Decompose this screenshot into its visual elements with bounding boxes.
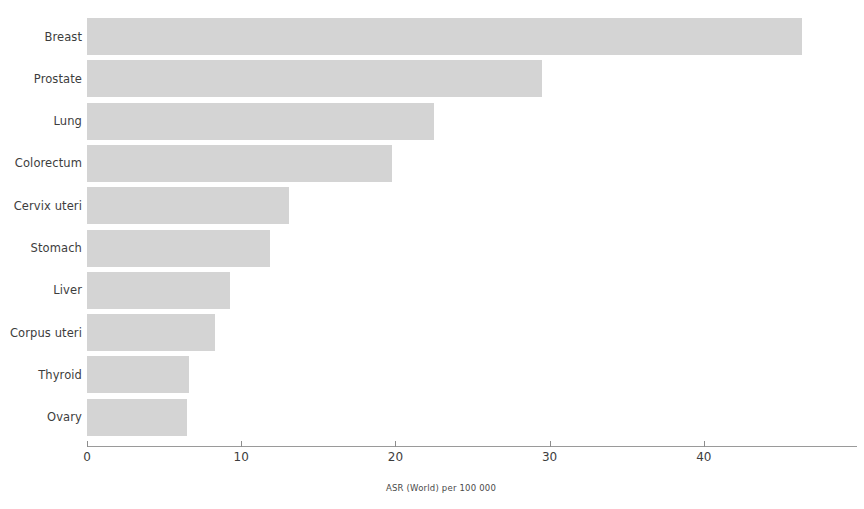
category-label: Prostate — [0, 72, 82, 86]
y-axis-tick-label: Colorectum — [0, 145, 82, 182]
bar-row — [87, 103, 812, 140]
y-axis-tick-label: Corpus uteri — [0, 314, 82, 351]
bar[interactable] — [87, 18, 802, 55]
y-axis-tick-label: Prostate — [0, 60, 82, 97]
y-axis-tick-label: Breast — [0, 18, 82, 55]
bar[interactable] — [87, 230, 270, 267]
x-axis-tick-label: 0 — [83, 450, 91, 464]
x-axis-tick — [550, 441, 551, 447]
plot-area — [87, 18, 812, 443]
y-axis-tick-label: Cervix uteri — [0, 187, 82, 224]
category-label: Ovary — [0, 410, 82, 424]
y-axis-tick-label: Ovary — [0, 399, 82, 436]
y-axis-tick-label: Lung — [0, 103, 82, 140]
bar[interactable] — [87, 103, 434, 140]
bar-row — [87, 314, 812, 351]
category-label: Colorectum — [0, 156, 82, 170]
x-axis-tick-label: 20 — [388, 450, 403, 464]
x-axis-title: ASR (World) per 100 000 — [0, 483, 864, 493]
bar[interactable] — [87, 272, 230, 309]
category-label: Lung — [0, 114, 82, 128]
bar-chart: BreastProstateLungColorectumCervix uteri… — [0, 0, 864, 509]
bar-row — [87, 145, 812, 182]
x-axis-title-text: ASR (World) per 100 000 — [368, 483, 496, 493]
category-label: Liver — [0, 283, 82, 297]
y-axis-tick-label: Thyroid — [0, 356, 82, 393]
category-label: Breast — [0, 30, 82, 44]
x-axis-tick — [241, 441, 242, 447]
x-axis-tick — [704, 441, 705, 447]
bar-row — [87, 356, 812, 393]
x-axis-tick — [395, 441, 396, 447]
bar[interactable] — [87, 356, 189, 393]
bar-row — [87, 399, 812, 436]
bar-row — [87, 187, 812, 224]
category-label: Corpus uteri — [0, 326, 82, 340]
x-axis-tick-label: 40 — [696, 450, 711, 464]
bar-row — [87, 272, 812, 309]
x-axis-tick — [87, 441, 88, 447]
x-axis-tick-label: 30 — [542, 450, 557, 464]
y-axis-labels: BreastProstateLungColorectumCervix uteri… — [0, 18, 87, 443]
bar[interactable] — [87, 145, 392, 182]
bar[interactable] — [87, 314, 215, 351]
bar[interactable] — [87, 60, 542, 97]
bar-row — [87, 18, 812, 55]
bar-row — [87, 230, 812, 267]
bar[interactable] — [87, 399, 187, 436]
bar-row — [87, 60, 812, 97]
x-axis-line — [87, 446, 857, 447]
y-axis-tick-label: Stomach — [0, 230, 82, 267]
y-axis-tick-label: Liver — [0, 272, 82, 309]
x-axis-tick-label: 10 — [234, 450, 249, 464]
category-label: Cervix uteri — [0, 199, 82, 213]
bar[interactable] — [87, 187, 289, 224]
category-label: Stomach — [0, 241, 82, 255]
category-label: Thyroid — [0, 368, 82, 382]
